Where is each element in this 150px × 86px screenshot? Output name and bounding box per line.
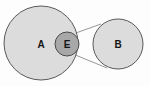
circle-set-e[interactable] — [55, 32, 79, 56]
set-diagram-canvas: A E B — [0, 0, 150, 86]
venn-diagram-svg: A E B — [0, 0, 150, 86]
circle-set-b[interactable] — [93, 19, 143, 69]
